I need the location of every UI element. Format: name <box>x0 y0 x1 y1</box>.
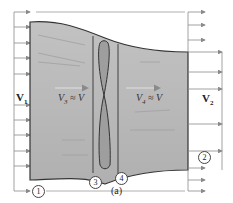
station-3-marker: 3 <box>89 176 102 189</box>
v1-label: V1 <box>16 92 27 106</box>
v4-label: V4 ≈ V <box>136 93 162 106</box>
v2-sub: 2 <box>210 99 214 107</box>
v3-rel: ≈ V <box>68 92 85 103</box>
station-4-marker: 4 <box>115 172 128 185</box>
station-2-marker: 2 <box>198 151 211 164</box>
v2-main: V <box>202 92 210 104</box>
v1-main: V <box>16 91 24 103</box>
v4-rel: ≈ V <box>146 92 163 103</box>
station-1-marker: 1 <box>32 185 45 198</box>
v1-sub: 1 <box>24 98 28 106</box>
figure-caption: (a) <box>111 186 122 196</box>
v3-label: V3 ≈ V <box>58 93 84 106</box>
v2-label: V2 <box>202 93 213 107</box>
